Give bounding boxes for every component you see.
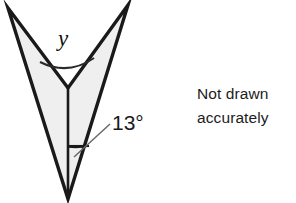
angle-13-label: 13° [112,111,144,134]
figure-root: y 13° Not drawn accurately [0,0,296,203]
not-drawn-accurately-note: Not drawn accurately [197,82,296,130]
angle-y-label: y [56,26,69,51]
note-line-2: accurately [197,106,296,130]
note-line-1: Not drawn [197,82,296,106]
